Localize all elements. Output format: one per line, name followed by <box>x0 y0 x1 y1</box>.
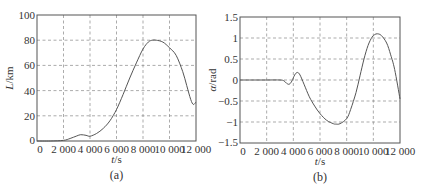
y-tick-label: 1 <box>233 32 239 44</box>
y-axis-label: L/km <box>3 66 15 91</box>
x-tick-label: 0 <box>240 145 246 157</box>
y-tick-label: 80 <box>24 34 36 46</box>
y-tick-label: −1 <box>226 116 238 128</box>
y-tick-label: 0 <box>233 74 239 86</box>
grid-lines <box>37 15 196 141</box>
figure: 02 0004 0006 0008 00010 00012 0000204060… <box>0 0 422 192</box>
x-axis-label: t/s <box>111 153 121 165</box>
x-tick-label: 0 <box>37 143 43 155</box>
y-tick-label: −0.5 <box>218 95 238 107</box>
y-tick-label: −1.5 <box>218 136 238 148</box>
y-tick-label: 100 <box>19 9 36 21</box>
x-axis-label: t/s <box>315 155 325 167</box>
x-tick-label: 2 000 <box>51 143 76 155</box>
y-axis-label: α/rad <box>206 68 218 91</box>
y-tick-label: 0 <box>30 134 36 146</box>
x-tick-label: 12 000 <box>181 143 212 155</box>
y-tick-label: 40 <box>24 85 36 97</box>
y-tick-label: 20 <box>24 110 36 122</box>
panel-caption: (a) <box>110 168 123 182</box>
panel-caption: (b) <box>313 170 327 184</box>
x-tick-label: 8 000 <box>131 143 156 155</box>
x-tick-label: 2 000 <box>254 145 279 157</box>
x-tick-label: 4 000 <box>281 145 306 157</box>
chart-panel-b: 02 0004 0006 0008 00010 00012 000−1.5−1−… <box>206 11 416 184</box>
x-tick-label: 8 000 <box>334 145 359 157</box>
x-tick-label: 4 000 <box>78 143 103 155</box>
chart-panel-a: 02 0004 0006 0008 00010 00012 0000204060… <box>3 9 212 182</box>
y-tick-label: 0.5 <box>224 53 238 65</box>
x-tick-label: 12 000 <box>385 145 416 157</box>
y-tick-label: 1.5 <box>224 11 238 23</box>
y-tick-label: 60 <box>24 59 36 71</box>
